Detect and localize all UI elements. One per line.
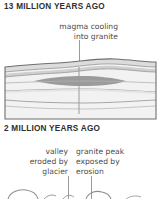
terrain-ridge-left [8,190,38,199]
magma-cooling-into-granite-label: magma cooling into granite [8,22,118,42]
geologic-cross-section-figure: 13 MILLION YEARS AGO magma cooling into … [0,0,161,199]
panel-title-2-million-years-ago: 2 MILLION YEARS AGO [4,124,100,133]
block-diagram-13-million-years-ago [0,56,161,122]
terrain-slope-right [126,196,141,199]
block-diagram-2-million-years-ago-cropped [0,183,161,199]
terrain-valley-floor [63,195,74,199]
terrain-slope-left [44,195,56,199]
panel-title-13-million-years-ago: 13 MILLION YEARS AGO [4,2,105,11]
valley-eroded-by-glacier-label: valley eroded by glacier [10,147,68,178]
terrain-granite-peak [86,191,111,199]
granite-peak-exposed-by-erosion-label: granite peak exposed by erosion [76,147,148,178]
